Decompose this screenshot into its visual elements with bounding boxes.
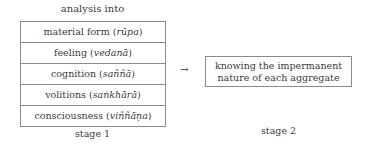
aggregate-english: consciousness	[34, 110, 103, 121]
aggregate-pali: saṅkhārā	[93, 89, 137, 100]
aggregate-row: volitions (saṅkhārā)	[21, 84, 165, 105]
stage2-label: stage 2	[205, 125, 352, 136]
stage1-title: analysis into	[20, 3, 165, 14]
stage2-box-line1: knowing the impermanent	[206, 60, 351, 72]
aggregate-pali: saññā	[103, 68, 131, 79]
aggregate-pali: vedanā	[94, 47, 129, 58]
aggregate-row: feeling (vedanā)	[21, 42, 165, 63]
aggregate-english: volitions	[45, 89, 86, 100]
aggregate-pali: rūpa	[116, 26, 138, 37]
aggregates-stack: material form (rūpa) feeling (vedanā) co…	[20, 21, 166, 127]
aggregate-english: material form	[43, 26, 109, 37]
stage1-label: stage 1	[20, 128, 165, 139]
stage2-box: knowing the impermanent nature of each a…	[205, 56, 352, 87]
aggregate-row: consciousness (viññāṇa)	[21, 105, 165, 126]
arrow-right-icon: →	[180, 64, 188, 75]
aggregate-pali: viññāṇa	[110, 110, 148, 121]
aggregate-english: cognition	[51, 68, 96, 79]
aggregate-row: cognition (saññā)	[21, 63, 165, 84]
stage2-box-line2: nature of each aggregate	[206, 72, 351, 84]
aggregate-english: feeling	[54, 47, 87, 58]
aggregate-row: material form (rūpa)	[21, 22, 165, 42]
